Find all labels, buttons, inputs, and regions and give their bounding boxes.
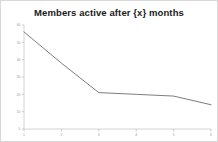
- y-tick-label: 20: [17, 93, 21, 97]
- y-tick-label: 10: [17, 110, 21, 114]
- x-axis: 123456: [23, 129, 212, 137]
- x-tick-label: 5: [173, 133, 175, 137]
- y-tick-group: 0102030405060: [17, 23, 24, 131]
- x-tick-label: 1: [23, 133, 25, 137]
- x-tick-label: 4: [135, 133, 137, 137]
- data-series-group: [24, 32, 211, 105]
- series-line-members-active: [24, 32, 211, 105]
- x-tick-label: 6: [210, 133, 212, 137]
- y-tick-label: 60: [17, 23, 21, 27]
- x-tick-group: 123456: [23, 129, 212, 137]
- y-axis: 0102030405060: [17, 23, 24, 131]
- y-tick-label: 0: [19, 127, 21, 131]
- line-chart-plot: 0102030405060 123456: [1, 1, 218, 142]
- y-tick-label: 30: [17, 75, 21, 79]
- x-tick-label: 2: [60, 133, 62, 137]
- chart-card: Members active after {x} months 01020304…: [0, 0, 218, 142]
- y-tick-label: 40: [17, 58, 21, 62]
- y-tick-label: 50: [17, 41, 21, 45]
- x-tick-label: 3: [98, 133, 100, 137]
